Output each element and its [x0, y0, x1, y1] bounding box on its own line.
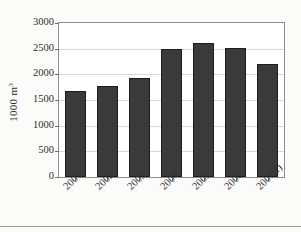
- y-axis-tick-mark: [55, 177, 59, 178]
- y-axis-tick-label: 1000: [8, 120, 54, 131]
- y-axis-tick-mark: [55, 23, 59, 24]
- bar: [225, 48, 246, 177]
- y-axis-tick-label: 500: [8, 145, 54, 156]
- y-axis-tick-label: 3000: [8, 17, 54, 28]
- bar: [193, 43, 214, 177]
- bar: [129, 78, 150, 177]
- bar: [257, 64, 278, 177]
- y-axis-title-superscript: 3: [7, 83, 15, 87]
- bottom-divider: [0, 226, 301, 227]
- bar: [65, 91, 86, 177]
- bar: [161, 49, 182, 177]
- y-axis-tick-mark: [55, 126, 59, 127]
- y-axis-tick-mark: [55, 74, 59, 75]
- chart-figure: 1000 m3 05001000150020002500300020012002…: [0, 0, 301, 232]
- plot-area: [58, 22, 285, 178]
- y-axis-tick-label: 0: [8, 171, 54, 182]
- y-axis-tick-label: 2500: [8, 43, 54, 54]
- y-axis-tick-label: 2000: [8, 68, 54, 79]
- y-axis-tick-mark: [55, 49, 59, 50]
- y-axis-tick-mark: [55, 100, 59, 101]
- bar: [97, 86, 118, 177]
- y-axis-tick-mark: [55, 151, 59, 152]
- y-axis-tick-label: 1500: [8, 94, 54, 105]
